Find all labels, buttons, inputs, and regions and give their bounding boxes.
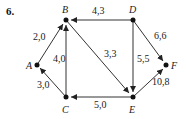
node-d <box>131 18 136 23</box>
node-b <box>64 18 69 23</box>
weight-d-b: 4,3 <box>92 5 105 16</box>
node-label-e: E <box>128 104 135 115</box>
weight-a-b: 2,0 <box>33 31 46 42</box>
node-label-f: F <box>170 60 178 71</box>
node-e <box>131 95 136 100</box>
node-a <box>35 63 40 68</box>
weight-b-e: 3,3 <box>104 48 117 59</box>
node-label-d: D <box>128 4 137 15</box>
weight-c-a: 3,0 <box>37 79 50 90</box>
node-label-a: A <box>25 60 33 71</box>
weight-e-c: 5,0 <box>94 99 107 110</box>
weight-d-e: 5,5 <box>137 53 150 64</box>
problem-number: 6. <box>6 5 15 17</box>
weight-e-f: 10,8 <box>152 76 170 87</box>
node-f <box>164 63 169 68</box>
node-c <box>64 95 69 100</box>
edge-weights: 2,0 3,0 4,0 4,3 3,3 5,5 5,0 6,6 10,8 <box>33 5 170 110</box>
directed-weighted-graph: 6. 2,0 3,0 4,0 4,3 3,3 5,5 5,0 6,6 10,8 … <box>0 0 186 119</box>
weight-c-b: 4,0 <box>53 53 66 64</box>
node-label-b: B <box>62 4 68 15</box>
node-label-c: C <box>62 104 69 115</box>
weight-d-f: 6,6 <box>154 30 167 41</box>
edge-b-e <box>66 20 129 93</box>
